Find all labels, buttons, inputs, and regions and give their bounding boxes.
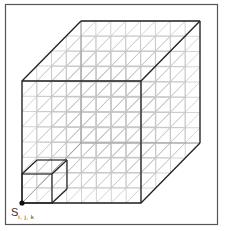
cell-label-subscript: i, j, k (18, 214, 34, 220)
cube-diagram (0, 0, 225, 231)
origin-point (19, 200, 24, 205)
cell-label: Si, j, k (11, 207, 34, 220)
